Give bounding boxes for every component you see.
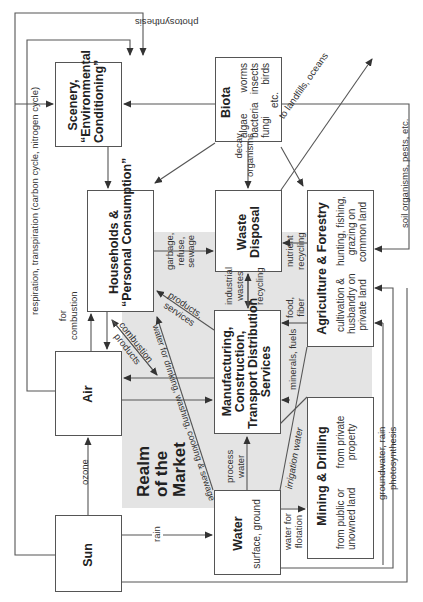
water-title: Water bbox=[232, 506, 245, 561]
agriculture-sub: husbandry on bbox=[346, 276, 357, 334]
label-industrial: industrial bbox=[224, 267, 235, 305]
node-agriculture-forestry: Agriculture & Forestry cultivation & hus… bbox=[307, 190, 374, 347]
label-ozone: ozone bbox=[80, 459, 91, 485]
node-air: Air bbox=[55, 351, 122, 436]
biota-example: worms bbox=[238, 63, 249, 97]
node-biota: Biota algae bacteria fungi worms insects… bbox=[215, 57, 282, 142]
biota-example: fungi bbox=[260, 103, 271, 138]
label-recycling: recycling bbox=[255, 268, 266, 306]
label-garbage: garbage, bbox=[165, 232, 176, 270]
label-soil-organisms: soil organisms, pests, etc. bbox=[400, 119, 411, 228]
mining-sub: from public or bbox=[335, 488, 346, 550]
agriculture-title: Agriculture & Forestry bbox=[316, 196, 329, 341]
scenery-title-3: Conditioning” bbox=[93, 67, 106, 143]
label-water-for: water for bbox=[283, 513, 294, 550]
label-nutrient: nutrient bbox=[285, 233, 296, 271]
label-respiration: respiration, transpiration (carbon cycle… bbox=[30, 87, 41, 315]
agriculture-sub: private land bbox=[357, 276, 368, 334]
agriculture-sub: common land bbox=[357, 198, 368, 266]
label-minerals-fuels: minerals, fuels bbox=[288, 329, 299, 390]
biota-etc: etc. bbox=[269, 92, 280, 108]
agriculture-sub: hunting, fishing, bbox=[335, 198, 346, 266]
waste-title-2: Disposal bbox=[249, 203, 262, 261]
agriculture-sub: grazing on bbox=[346, 198, 357, 266]
mining-title: Mining & Drilling bbox=[316, 406, 329, 546]
mining-sub: unowned land bbox=[346, 488, 357, 550]
realm-label-line-2: of the bbox=[153, 442, 171, 497]
label-fiber: fiber bbox=[296, 297, 307, 318]
node-manufacturing: Manufacturing, Construction, Transport D… bbox=[214, 310, 281, 434]
mining-sub: property bbox=[346, 411, 357, 473]
label-rain: rain bbox=[152, 523, 163, 545]
label-garbage: sewage bbox=[186, 232, 197, 270]
label-process: process bbox=[225, 450, 236, 483]
mining-sub: from private bbox=[335, 411, 346, 473]
realm-label: Realm of the Market bbox=[135, 442, 189, 497]
biota-title: Biota bbox=[220, 88, 233, 118]
label-organisms: organisms bbox=[245, 133, 256, 177]
label-photosynthesis-right: photosynthesis bbox=[388, 427, 399, 490]
label-food: food, bbox=[285, 297, 296, 318]
manufacturing-title-4: Services bbox=[260, 314, 273, 429]
air-title: Air bbox=[82, 384, 95, 404]
label-water: water bbox=[236, 450, 247, 483]
label-photosynthesis-top: photosynthesis bbox=[135, 16, 198, 27]
label-for-combustion: for bbox=[58, 291, 69, 340]
label-groundwater-rain: groundwater, rain bbox=[377, 427, 388, 500]
households-title-2: “Personal Consumption” bbox=[121, 197, 134, 307]
biota-example: insects bbox=[249, 63, 260, 97]
label-wastes: wastes bbox=[235, 267, 246, 305]
realm-label-line-3: Market bbox=[171, 442, 189, 497]
label-for-combustion: combustion bbox=[69, 291, 80, 340]
agriculture-sub: cultivation & bbox=[335, 276, 346, 334]
water-sub: surface, ground bbox=[251, 499, 262, 569]
label-recycling: recycling bbox=[296, 233, 307, 271]
node-water: Water surface, ground bbox=[214, 490, 281, 575]
label-decay: decay bbox=[234, 133, 245, 177]
node-households: Households & “Personal Consumption” bbox=[87, 190, 154, 312]
node-waste-disposal: Waste Disposal bbox=[215, 190, 282, 272]
node-scenery: Scenery, “Environmental Conditioning” bbox=[55, 62, 122, 147]
node-mining-drilling: Mining & Drilling from public or unowned… bbox=[307, 397, 374, 559]
label-flotation: flotation bbox=[294, 513, 305, 550]
node-sun: Sun bbox=[55, 515, 122, 592]
sun-title: Sun bbox=[82, 541, 95, 569]
realm-label-line-1: Realm bbox=[135, 442, 153, 497]
